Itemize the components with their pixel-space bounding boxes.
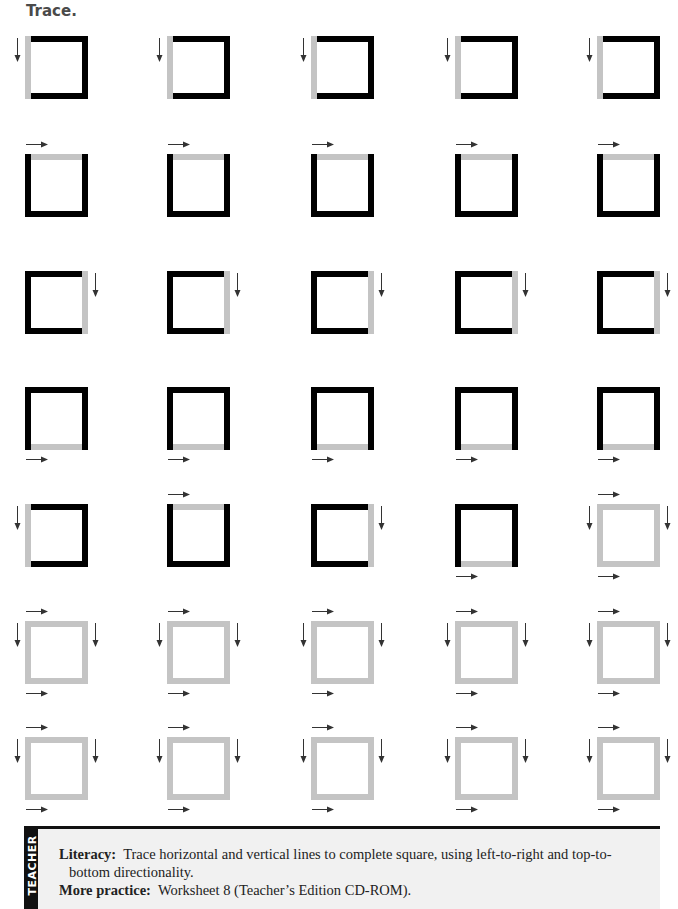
arrow-right-icon (598, 724, 620, 731)
trace-square (25, 154, 88, 217)
trace-line-bottom (455, 444, 518, 450)
solid-line-bottom (311, 561, 374, 567)
arrow-down-icon (444, 38, 451, 62)
arrow-down-icon (300, 623, 307, 647)
trace-line-right (82, 271, 88, 334)
solid-line-right (82, 36, 88, 99)
trace-line-left (25, 36, 31, 99)
solid-line-top (455, 36, 518, 42)
solid-line-top (167, 36, 230, 42)
arrow-right-icon (456, 724, 478, 731)
solid-line-right (82, 154, 88, 217)
solid-line-top (311, 387, 374, 393)
trace-line-bottom (597, 678, 660, 684)
solid-line-right (368, 387, 374, 450)
trace-line-right (82, 621, 88, 684)
worksheet-title: Trace. (26, 2, 77, 20)
trace-line-right (512, 271, 518, 334)
solid-line-left (167, 387, 173, 450)
solid-line-bottom (25, 211, 88, 217)
trace-square (597, 271, 660, 334)
arrow-down-icon (234, 623, 241, 647)
trace-square (311, 504, 374, 567)
arrow-right-icon (598, 141, 620, 148)
solid-line-top (455, 387, 518, 393)
trace-line-top (25, 154, 88, 160)
trace-line-left (455, 621, 461, 684)
solid-line-left (311, 387, 317, 450)
arrow-down-icon (300, 739, 307, 763)
trace-line-bottom (311, 794, 374, 800)
trace-line-top (311, 154, 374, 160)
arrow-right-icon (312, 141, 334, 148)
trace-line-right (368, 621, 374, 684)
solid-line-left (311, 271, 317, 334)
solid-line-top (455, 504, 518, 510)
trace-line-bottom (455, 678, 518, 684)
literacy-line: Literacy: Trace horizontal and vertical … (59, 846, 611, 863)
arrow-down-icon (522, 273, 529, 297)
solid-line-top (455, 271, 518, 277)
trace-line-top (167, 504, 230, 510)
literacy-text: Trace horizontal and vertical lines to c… (123, 846, 611, 862)
trace-line-left (167, 621, 173, 684)
trace-square (25, 36, 88, 99)
solid-line-left (597, 154, 603, 217)
trace-square (167, 737, 230, 800)
trace-line-top (597, 621, 660, 627)
arrow-right-icon (26, 608, 48, 615)
solid-line-top (25, 387, 88, 393)
trace-line-left (597, 36, 603, 99)
teacher-note-panel: TEACHER Literacy: Trace horizontal and v… (24, 826, 660, 909)
trace-square (25, 387, 88, 450)
trace-line-right (368, 504, 374, 567)
teacher-tab: TEACHER (24, 829, 38, 909)
trace-square (167, 504, 230, 567)
trace-line-bottom (597, 561, 660, 567)
solid-line-right (512, 36, 518, 99)
trace-line-right (512, 621, 518, 684)
solid-line-left (167, 154, 173, 217)
arrow-down-icon (234, 739, 241, 763)
arrow-right-icon (312, 806, 334, 813)
trace-line-bottom (455, 794, 518, 800)
solid-line-bottom (455, 211, 518, 217)
arrow-down-icon (92, 273, 99, 297)
trace-square (455, 737, 518, 800)
trace-line-left (311, 737, 317, 800)
solid-line-right (654, 36, 660, 99)
solid-line-top (597, 271, 660, 277)
solid-line-right (368, 36, 374, 99)
arrow-right-icon (312, 690, 334, 697)
trace-line-bottom (167, 794, 230, 800)
trace-square (25, 737, 88, 800)
arrow-right-icon (168, 141, 190, 148)
solid-line-top (167, 387, 230, 393)
arrow-right-icon (26, 690, 48, 697)
arrow-down-icon (522, 739, 529, 763)
arrow-right-icon (456, 141, 478, 148)
trace-line-top (455, 621, 518, 627)
literacy-label: Literacy: (59, 846, 116, 862)
trace-square (167, 621, 230, 684)
solid-line-right (654, 154, 660, 217)
practice-label: More practice: (59, 882, 151, 898)
solid-line-bottom (597, 328, 660, 334)
arrow-down-icon (664, 273, 671, 297)
solid-line-bottom (455, 328, 518, 334)
arrow-right-icon (456, 608, 478, 615)
arrow-right-icon (312, 724, 334, 731)
trace-square (167, 271, 230, 334)
trace-square (167, 36, 230, 99)
trace-square (597, 504, 660, 567)
solid-line-bottom (311, 211, 374, 217)
practice-text: Worksheet 8 (Teacher’s Edition CD-ROM). (158, 882, 411, 898)
trace-line-top (597, 737, 660, 743)
trace-line-left (167, 36, 173, 99)
arrow-right-icon (168, 806, 190, 813)
arrow-down-icon (92, 739, 99, 763)
arrow-down-icon (378, 739, 385, 763)
solid-line-left (455, 271, 461, 334)
trace-line-left (597, 504, 603, 567)
arrow-right-icon (312, 608, 334, 615)
